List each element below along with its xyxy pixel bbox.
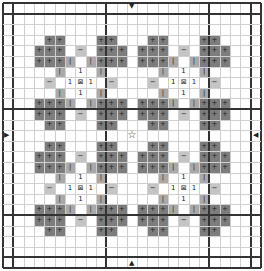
dark-stitch-cell[interactable]: + xyxy=(34,56,44,67)
dark-stitch-cell[interactable]: + xyxy=(117,215,127,226)
dark-stitch-cell[interactable]: + xyxy=(117,56,127,67)
dark-stitch-cell[interactable]: + xyxy=(106,226,116,237)
number-cell[interactable]: 1 xyxy=(178,173,188,184)
mid-stitch-cell[interactable]: | xyxy=(55,88,65,99)
light-stitch-cell[interactable]: − xyxy=(44,77,54,88)
center-mark-icon[interactable]: ⊠ xyxy=(178,77,188,88)
dark-stitch-cell[interactable]: + xyxy=(209,35,219,46)
mid-stitch-cell[interactable]: | xyxy=(189,56,199,67)
number-cell[interactable]: 1 xyxy=(178,194,188,205)
dark-stitch-cell[interactable]: + xyxy=(137,56,147,67)
dark-stitch-cell[interactable]: + xyxy=(158,226,168,237)
mid-stitch-cell[interactable]: | xyxy=(65,162,75,173)
dark-stitch-cell[interactable]: + xyxy=(147,141,157,152)
light-stitch-cell[interactable]: − xyxy=(209,183,219,194)
dark-stitch-cell[interactable]: + xyxy=(209,215,219,226)
light-stitch-cell[interactable]: − xyxy=(178,151,188,162)
dark-stitch-cell[interactable]: + xyxy=(220,151,230,162)
center-mark-icon[interactable]: ⊠ xyxy=(178,183,188,194)
dark-stitch-cell[interactable]: + xyxy=(55,141,65,152)
dark-stitch-cell[interactable]: + xyxy=(158,35,168,46)
number-cell[interactable]: 1 xyxy=(189,77,199,88)
mid-stitch-cell[interactable]: | xyxy=(55,173,65,184)
dark-stitch-cell[interactable]: + xyxy=(117,151,127,162)
number-cell[interactable]: 1 xyxy=(75,173,85,184)
dark-stitch-cell[interactable]: + xyxy=(209,162,219,173)
dark-stitch-cell[interactable]: + xyxy=(44,141,54,152)
dark-stitch-cell[interactable]: + xyxy=(158,162,168,173)
dark-stitch-cell[interactable]: + xyxy=(44,120,54,131)
mid-stitch-cell[interactable]: | xyxy=(55,67,65,78)
dark-stitch-cell[interactable]: + xyxy=(220,215,230,226)
mid-stitch-cell[interactable]: | xyxy=(158,173,168,184)
dark-stitch-cell[interactable]: + xyxy=(220,45,230,56)
dark-stitch-cell[interactable]: + xyxy=(44,109,54,120)
dark-stitch-cell[interactable]: + xyxy=(137,162,147,173)
number-cell[interactable]: 1 xyxy=(168,77,178,88)
dark-stitch-cell[interactable]: + xyxy=(44,226,54,237)
dark-stitch-cell[interactable]: + xyxy=(106,56,116,67)
light-stitch-cell[interactable]: − xyxy=(147,77,157,88)
dark-stitch-cell[interactable]: + xyxy=(209,151,219,162)
mid-stitch-cell[interactable]: | xyxy=(168,56,178,67)
dark-stitch-cell[interactable]: + xyxy=(147,120,157,131)
dark-stitch-cell[interactable]: + xyxy=(55,35,65,46)
dark-stitch-cell[interactable]: + xyxy=(158,151,168,162)
dark-stitch-cell[interactable]: + xyxy=(158,141,168,152)
light-stitch-cell[interactable]: − xyxy=(209,77,219,88)
dark-stitch-cell[interactable]: + xyxy=(147,109,157,120)
dark-stitch-cell[interactable]: + xyxy=(147,35,157,46)
dark-stitch-cell[interactable]: + xyxy=(55,45,65,56)
number-cell[interactable]: 1 xyxy=(178,67,188,78)
mid-stitch-cell[interactable]: | xyxy=(65,56,75,67)
number-cell[interactable]: 1 xyxy=(168,183,178,194)
dark-stitch-cell[interactable]: + xyxy=(158,45,168,56)
dark-stitch-cell[interactable]: + xyxy=(147,45,157,56)
dark-stitch-cell[interactable]: + xyxy=(147,162,157,173)
dark-stitch-cell[interactable]: + xyxy=(117,45,127,56)
dark-stitch-cell[interactable]: + xyxy=(34,215,44,226)
light-stitch-cell[interactable]: − xyxy=(75,151,85,162)
cross-stitch-grid[interactable]: +++++++−++++++||+++|1|−1⊠1−|1|+++||+++++… xyxy=(3,3,261,268)
dark-stitch-cell[interactable]: + xyxy=(106,162,116,173)
dark-stitch-cell[interactable]: + xyxy=(106,215,116,226)
dark-stitch-cell[interactable]: + xyxy=(137,45,147,56)
dark-stitch-cell[interactable]: + xyxy=(44,56,54,67)
dark-stitch-cell[interactable]: + xyxy=(106,35,116,46)
dark-stitch-cell[interactable]: + xyxy=(55,56,65,67)
dark-stitch-cell[interactable]: + xyxy=(137,151,147,162)
star-center-icon[interactable]: ☆ xyxy=(127,130,137,141)
dark-stitch-cell[interactable]: + xyxy=(117,109,127,120)
number-cell[interactable]: 1 xyxy=(75,67,85,78)
dark-stitch-cell[interactable]: + xyxy=(106,141,116,152)
light-stitch-cell[interactable]: − xyxy=(178,109,188,120)
light-stitch-cell[interactable]: − xyxy=(75,109,85,120)
dark-stitch-cell[interactable]: + xyxy=(209,45,219,56)
number-cell[interactable]: 1 xyxy=(86,77,96,88)
dark-stitch-cell[interactable]: + xyxy=(158,56,168,67)
dark-stitch-cell[interactable]: + xyxy=(106,109,116,120)
number-cell[interactable]: 1 xyxy=(65,77,75,88)
dark-stitch-cell[interactable]: + xyxy=(34,45,44,56)
mid-stitch-cell[interactable]: | xyxy=(168,162,178,173)
dark-stitch-cell[interactable]: + xyxy=(209,141,219,152)
dark-stitch-cell[interactable]: + xyxy=(220,162,230,173)
dark-stitch-cell[interactable]: + xyxy=(44,35,54,46)
dark-stitch-cell[interactable]: + xyxy=(44,45,54,56)
dark-stitch-cell[interactable]: + xyxy=(147,215,157,226)
mid-stitch-cell[interactable]: | xyxy=(86,162,96,173)
dark-stitch-cell[interactable]: + xyxy=(44,151,54,162)
dark-stitch-cell[interactable]: + xyxy=(106,120,116,131)
mid-stitch-cell[interactable]: | xyxy=(55,194,65,205)
number-cell[interactable]: 1 xyxy=(178,88,188,99)
dark-stitch-cell[interactable]: + xyxy=(209,226,219,237)
light-stitch-cell[interactable]: − xyxy=(106,183,116,194)
mid-stitch-cell[interactable]: | xyxy=(189,162,199,173)
dark-stitch-cell[interactable]: + xyxy=(55,109,65,120)
number-cell[interactable]: 1 xyxy=(189,183,199,194)
center-mark-icon[interactable]: ⊠ xyxy=(75,77,85,88)
dark-stitch-cell[interactable]: + xyxy=(147,151,157,162)
dark-stitch-cell[interactable]: + xyxy=(44,215,54,226)
light-stitch-cell[interactable]: − xyxy=(178,215,188,226)
dark-stitch-cell[interactable]: + xyxy=(137,215,147,226)
